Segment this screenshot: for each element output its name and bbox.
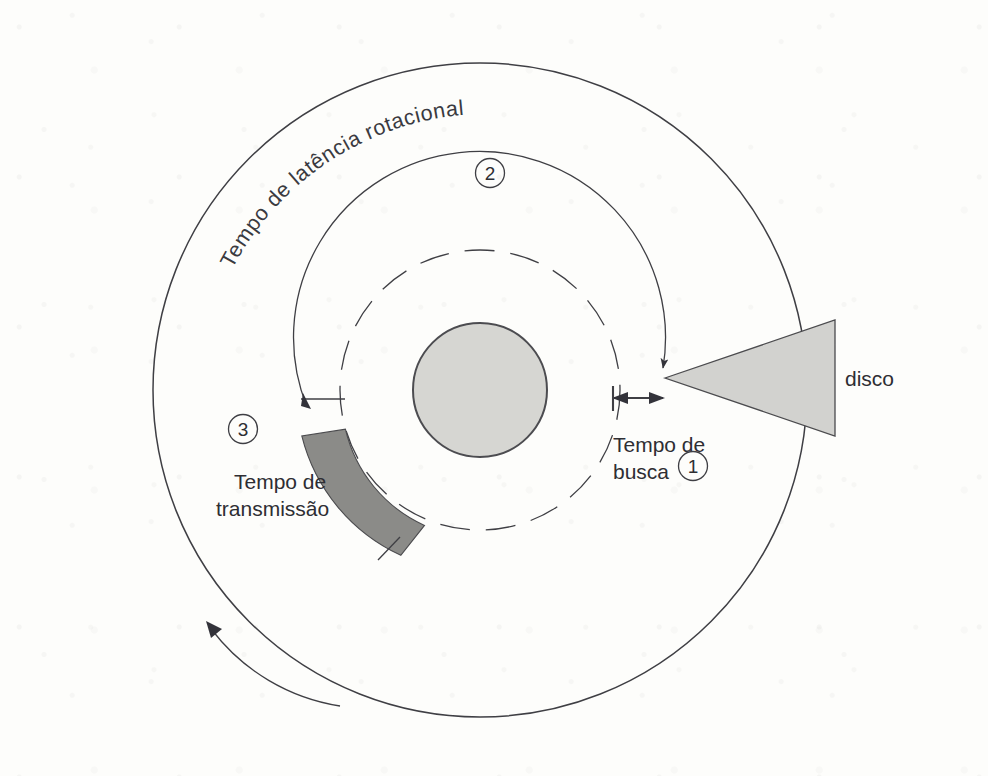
step-marker-3-number: 3 [238,419,249,440]
step-marker-2: 2 [476,159,505,188]
spindle-hub [413,323,547,457]
seek-time-label-line2: busca [613,460,669,483]
step-marker-1: 1 [679,452,708,481]
step-marker-3: 3 [229,415,258,444]
diagram-canvas: Tempo de latência rotacional Tempo de bu… [0,0,988,776]
rotation-direction-arrowhead [206,621,222,638]
step-marker-1-number: 1 [688,456,699,477]
seek-time-label-line1: Tempo de [613,433,705,456]
disk-arm-label: disco [845,367,894,390]
rotational-latency-label: Tempo de latência rotacional [216,96,465,272]
rotation-direction-arc [212,630,340,706]
transmission-label-line2: transmissão [216,497,329,520]
disk-access-time-figure: Tempo de latência rotacional Tempo de bu… [0,0,988,776]
seek-time-arrowhead-right [649,392,665,404]
transmission-label-line1: Tempo de [234,470,326,493]
step-marker-2-number: 2 [485,163,496,184]
disk-arm-triangle [665,320,835,436]
